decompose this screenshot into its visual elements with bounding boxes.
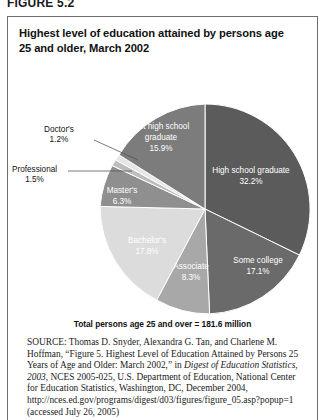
callout-professional-label: Professional — [12, 165, 57, 175]
source-note: SOURCE: Thomas D. Snyder, Alexandra G. T… — [27, 337, 304, 418]
slice-label-associate-name: Associate — [173, 262, 209, 271]
pie-chart-plot: High school graduate 32.2% Some college … — [8, 75, 317, 320]
slice-label-high-school-graduate-name: High school graduate — [212, 166, 290, 175]
callout-doctors: Doctor's 1.2% — [44, 125, 74, 145]
figure-page: FIGURE 5.2 Highest level of education at… — [0, 0, 326, 420]
slice-label-bachelors-name: Bachelor's — [128, 236, 166, 245]
source-text-part2: , NCES 2005-025, U.S. Department of Educ… — [27, 372, 295, 417]
slice-label-not-high-school-graduate-value: 15.9% — [149, 144, 172, 153]
pie-slices — [100, 104, 310, 314]
slice-label-some-college-name: Some college — [233, 256, 283, 265]
slice-label-not-high-school-graduate-name2: graduate — [145, 133, 178, 142]
callout-professional-value: 1.5% — [12, 175, 57, 185]
slice-label-not-high-school-graduate-name1: Not high school — [133, 122, 190, 131]
slice-label-bachelors-value: 17.8% — [135, 247, 158, 256]
callout-doctors-label: Doctor's — [44, 125, 74, 135]
slice-label-masters-name: Master's — [107, 186, 138, 195]
slice-label-high-school-graduate-value: 32.2% — [239, 177, 262, 186]
pie-chart-svg: High school graduate 32.2% Some college … — [8, 75, 317, 320]
figure-number-caption: FIGURE 5.2 — [7, 0, 74, 10]
chart-title: Highest level of education attained by p… — [19, 26, 289, 55]
slice-label-associate-value: 8.3% — [182, 273, 201, 282]
figure-frame: Highest level of education attained by p… — [7, 16, 318, 420]
source-prefix: SOURCE: — [27, 337, 67, 347]
callout-doctors-value: 1.2% — [44, 135, 74, 145]
slice-label-masters-value: 6.3% — [113, 197, 132, 206]
callout-professional: Professional 1.5% — [12, 165, 57, 185]
total-persons-note: Total persons age 25 and over = 181.6 mi… — [8, 319, 317, 329]
slice-label-some-college-value: 17.1% — [246, 267, 269, 276]
